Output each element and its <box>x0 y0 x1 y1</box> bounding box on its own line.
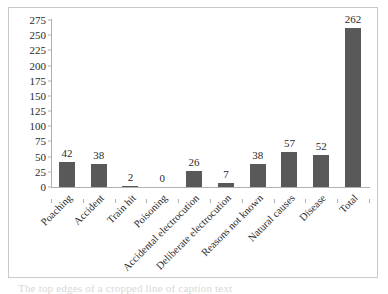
bar-group: 52 <box>313 155 329 187</box>
bar-slot: 42 <box>51 20 83 187</box>
bar-group: 2 <box>122 186 138 188</box>
bar[interactable] <box>250 164 266 187</box>
bar[interactable] <box>345 28 361 187</box>
bar[interactable] <box>281 152 297 187</box>
bar-group: 42 <box>59 162 75 188</box>
x-axis-line <box>51 187 370 188</box>
bar-value-label: 0 <box>160 173 166 187</box>
bar-value-label: 262 <box>345 14 362 28</box>
bar-value-label: 2 <box>128 172 134 186</box>
x-tick-mark <box>274 199 275 203</box>
bar-group: 38 <box>91 164 107 187</box>
x-tick-mark <box>242 199 243 203</box>
bar[interactable] <box>218 183 234 187</box>
x-tick-mark <box>178 199 179 203</box>
bar-value-label: 57 <box>284 138 295 152</box>
bar-group: 7 <box>218 183 234 187</box>
bar-value-label: 42 <box>61 148 72 162</box>
x-tick-mark <box>337 199 338 203</box>
x-tick-mark <box>305 199 306 203</box>
bar-value-label: 26 <box>189 157 200 171</box>
bar[interactable] <box>313 155 329 187</box>
bar-group: 26 <box>186 171 202 187</box>
bar-value-label: 7 <box>223 169 229 183</box>
bar[interactable] <box>59 162 75 188</box>
x-tick-mark <box>51 199 52 203</box>
bar-slot: 7 <box>210 20 242 187</box>
x-tick-mark <box>146 199 147 203</box>
cropped-caption-text: The top edges of a cropped line of capti… <box>18 285 370 294</box>
bar-slot: 57 <box>274 20 306 187</box>
x-tick-mark <box>115 199 116 203</box>
x-tick-mark <box>369 199 370 203</box>
bar[interactable] <box>186 171 202 187</box>
bar[interactable] <box>91 164 107 187</box>
cropped-caption: The top edges of a cropped line of capti… <box>18 285 370 294</box>
bar-slot: 38 <box>242 20 274 187</box>
x-tick-mark <box>83 199 84 203</box>
x-tick-mark <box>210 199 211 203</box>
bar-slot: 26 <box>178 20 210 187</box>
bar-slot: 2 <box>115 20 147 187</box>
bar-group: 262 <box>345 28 361 187</box>
bar-slot: 262 <box>337 20 369 187</box>
chart-frame: 2752502252001751501251007550250 42382026… <box>8 7 378 278</box>
bar-value-label: 38 <box>252 150 263 164</box>
bar-group: 57 <box>281 152 297 187</box>
bar[interactable] <box>122 186 138 188</box>
plot-area: 2752502252001751501251007550250 42382026… <box>51 20 369 187</box>
bar-value-label: 38 <box>93 150 104 164</box>
bar-slot: 38 <box>83 20 115 187</box>
bar-group: 38 <box>250 164 266 187</box>
bar-slot: 0 <box>146 20 178 187</box>
bar-value-label: 52 <box>316 141 327 155</box>
bar-slot: 52 <box>305 20 337 187</box>
